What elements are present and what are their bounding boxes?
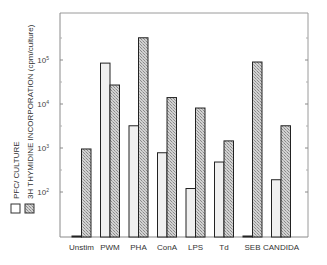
- category-label: LPS: [188, 243, 203, 252]
- y-tick-label: 102: [37, 187, 49, 197]
- bar-pfc: [186, 189, 196, 237]
- plot-frame: [60, 13, 308, 237]
- bar-thymidine: [281, 126, 291, 237]
- legend-swatch-thymidine: [25, 204, 34, 213]
- legend-label-thymidine: 3H THYMIDINE INCORPORATION (cpm/culture): [26, 24, 35, 199]
- bar-thymidine: [139, 38, 149, 237]
- category-label: CANDIDA: [263, 243, 300, 252]
- bar-pfc: [158, 153, 168, 237]
- bar-thymidine: [167, 98, 177, 237]
- bar-thymidine: [110, 85, 120, 237]
- y-tick-label: 104: [37, 99, 49, 109]
- bar-pfc: [243, 236, 253, 237]
- category-label: Td: [219, 243, 228, 252]
- bar-thymidine: [196, 108, 206, 237]
- bar-pfc: [129, 126, 139, 237]
- category-label: PWM: [100, 243, 120, 252]
- y-tick-label: 103: [37, 143, 49, 153]
- bar-pfc: [72, 236, 82, 237]
- bar-pfc: [272, 180, 282, 237]
- bar-thymidine: [82, 149, 92, 237]
- bar-pfc: [215, 162, 225, 237]
- category-labels: UnstimPWMPHAConALPSTdSEBCANDIDA: [69, 243, 300, 252]
- legend-swatch-pfc: [11, 204, 20, 213]
- legend-label-pfc: PFC/ CULTURE: [12, 141, 21, 199]
- bar-chart: 102103104105 UnstimPWMPHAConALPSTdSEBCAN…: [0, 0, 327, 265]
- category-label: PHA: [130, 243, 147, 252]
- category-label: ConA: [157, 243, 178, 252]
- legend: PFC/ CULTURE 3H THYMIDINE INCORPORATION …: [11, 24, 35, 213]
- bar-pfc: [101, 63, 111, 237]
- category-label: SEB: [244, 243, 260, 252]
- bar-thymidine: [224, 141, 234, 237]
- bars: [72, 38, 291, 237]
- category-label: Unstim: [69, 243, 94, 252]
- bar-thymidine: [253, 62, 263, 237]
- y-tick-label: 105: [37, 55, 49, 65]
